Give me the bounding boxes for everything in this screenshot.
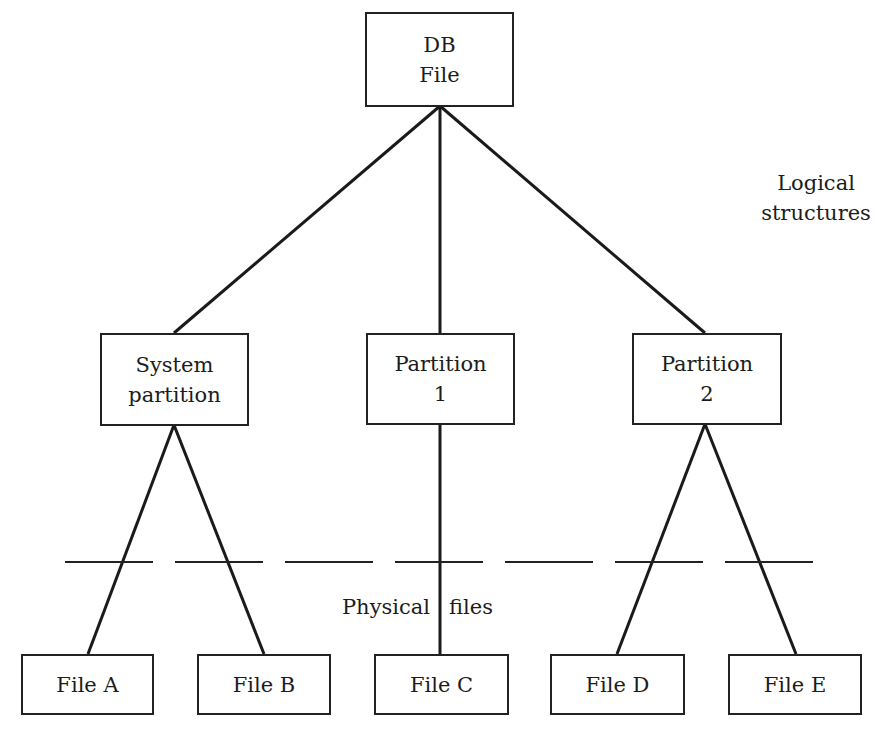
db-file-line2: File	[419, 60, 459, 90]
files-label: files	[449, 592, 509, 622]
partition-2-node: Partition 2	[632, 333, 782, 425]
logical-line2: structures	[756, 198, 876, 228]
file-e-node: File E	[728, 654, 862, 715]
file-c-label: File C	[410, 670, 473, 700]
edge-p2-fileD	[617, 424, 705, 654]
logical-structures-annotation: Logical structures	[756, 168, 876, 228]
system-partition-line2: partition	[128, 380, 220, 410]
file-d-node: File D	[550, 654, 685, 715]
system-partition-line1: System	[136, 350, 214, 380]
file-c-node: File C	[374, 654, 509, 715]
file-b-node: File B	[197, 654, 331, 715]
file-d-label: File D	[586, 670, 650, 700]
partition-1-line2: 1	[434, 379, 447, 409]
db-file-line1: DB	[423, 30, 455, 60]
file-e-label: File E	[764, 670, 826, 700]
partition-2-line1: Partition	[661, 349, 753, 379]
edge-p2-fileE	[705, 424, 796, 654]
file-a-node: File A	[21, 654, 154, 715]
partition-1-node: Partition 1	[366, 333, 515, 425]
partition-1-line1: Partition	[394, 349, 486, 379]
edge-system-fileB	[174, 425, 264, 654]
physical-label: Physical	[330, 592, 430, 622]
file-b-label: File B	[233, 670, 296, 700]
partition-2-line2: 2	[700, 379, 713, 409]
edge-root-system	[174, 106, 440, 333]
system-partition-node: System partition	[100, 333, 249, 426]
file-a-label: File A	[56, 670, 118, 700]
logical-line1: Logical	[756, 168, 876, 198]
edge-root-p2	[440, 106, 705, 333]
db-file-node: DB File	[365, 12, 514, 107]
edge-system-fileA	[88, 425, 174, 654]
